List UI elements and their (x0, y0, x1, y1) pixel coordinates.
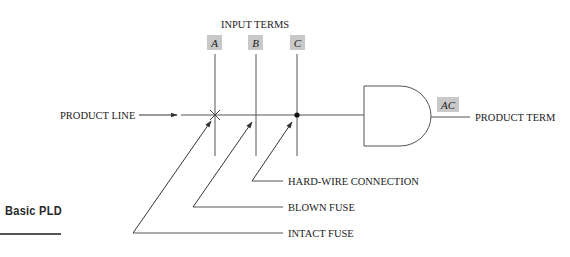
input-c-label: C (290, 35, 305, 50)
blown-fuse-callout: BLOWN FUSE (193, 122, 355, 213)
svg-text:A: A (210, 37, 218, 49)
svg-text:C: C (294, 37, 302, 49)
and-gate-icon (364, 86, 431, 146)
product-term-label: PRODUCT TERM (475, 112, 556, 123)
svg-text:INTACT FUSE: INTACT FUSE (288, 228, 354, 239)
svg-text:AC: AC (440, 99, 456, 111)
section-divider (0, 233, 61, 235)
svg-text:HARD-WIRE CONNECTION: HARD-WIRE CONNECTION (288, 176, 419, 187)
gate-output-label: AC (437, 97, 459, 112)
product-line-label: PRODUCT LINE (60, 110, 135, 121)
section-title: Basic PLD (5, 203, 62, 218)
svg-text:B: B (252, 37, 259, 49)
input-a-label: A (207, 35, 222, 50)
input-b-label: B (248, 35, 263, 50)
hard-wire-dot-icon (294, 112, 299, 117)
input-terms-label: INPUT TERMS (221, 19, 289, 30)
svg-text:BLOWN FUSE: BLOWN FUSE (288, 202, 355, 213)
pld-diagram: INPUT TERMS A B C PRODUCT LINE (0, 0, 570, 257)
